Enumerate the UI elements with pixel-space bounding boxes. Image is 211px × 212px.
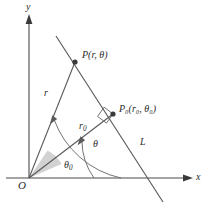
point-p-label: P(r, θ) [82, 50, 107, 60]
y-axis-label: y [26, 2, 30, 12]
segment-r-label: r [44, 88, 48, 98]
polar-line-figure: y x O P(r, θ) P₀(r₀, θ₀) r r0 L θ θ0 [0, 0, 211, 212]
origin-label: O [18, 180, 26, 191]
y-axis-arrowhead [26, 14, 33, 24]
angle-arc-theta-arrowhead [50, 115, 57, 124]
x-axis-arrowhead [183, 175, 193, 182]
x-axis-label: x [196, 172, 200, 182]
point-marker-p [72, 59, 77, 64]
line-L-label: L [140, 137, 146, 147]
angle-theta0-label-sub: 0 [69, 164, 73, 172]
point-p0-label: P₀(r₀, θ₀) [119, 104, 156, 114]
figure-canvas [0, 0, 211, 212]
segment-r0-label-sub: 0 [83, 125, 87, 133]
angle-theta-label: θ [93, 139, 98, 149]
segment-r0-label: r0 [79, 121, 87, 133]
point-marker-p0 [110, 111, 115, 116]
angle-theta0-label: θ0 [64, 160, 73, 172]
